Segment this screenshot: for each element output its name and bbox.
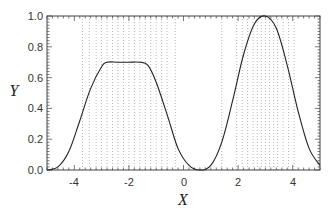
- line-chart: -4 -2 0 2 4 0.0 0.2 0.4 0.6 0.8 1.0 X Y: [0, 0, 331, 208]
- y-axis-title: Y: [10, 82, 21, 99]
- x-tick-label: -4: [69, 176, 79, 188]
- x-tick-label: 0: [181, 176, 187, 188]
- x-tick-label: 2: [235, 176, 241, 188]
- data-curve: [47, 16, 320, 170]
- y-tick-label: 0.6: [28, 72, 43, 84]
- y-tick-label: 0.0: [28, 164, 43, 176]
- plot-frame: [47, 16, 320, 170]
- x-tick-label: 4: [290, 176, 296, 188]
- y-tick-labels: 0.0 0.2 0.4 0.6 0.8 1.0: [28, 10, 43, 176]
- y-tick-label: 0.4: [28, 102, 43, 114]
- x-axis-title: X: [177, 191, 189, 208]
- minor-ticks: [47, 16, 320, 170]
- x-tick-label: -2: [124, 176, 134, 188]
- vertical-dotted-lines: [82, 16, 294, 170]
- y-tick-label: 0.8: [28, 41, 43, 53]
- x-tick-labels: -4 -2 0 2 4: [69, 176, 296, 188]
- y-tick-label: 0.2: [28, 133, 43, 145]
- y-tick-label: 1.0: [28, 10, 43, 22]
